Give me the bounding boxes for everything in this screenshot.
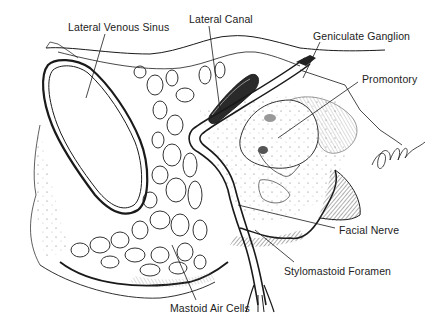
mastoid-air-cells-shape — [71, 62, 225, 276]
label-lateral-venous-sinus: Lateral Venous Sinus — [68, 21, 169, 33]
label-lateral-canal: Lateral Canal — [189, 13, 253, 25]
label-promontory: Promontory — [362, 73, 417, 85]
artist-signature — [372, 142, 425, 169]
label-geniculate-ganglion: Geniculate Ganglion — [313, 30, 410, 42]
label-stylomastoid-foramen: Stylomastoid Foramen — [284, 265, 391, 277]
anatomical-diagram: Lateral Venous Sinus Lateral Canal Genic… — [0, 0, 438, 326]
label-mastoid-air-cells: Mastoid Air Cells — [170, 302, 250, 314]
label-facial-nerve: Facial Nerve — [339, 224, 399, 236]
leader-mastoid-air-cells — [172, 245, 196, 300]
temporal-bone-illustration — [0, 0, 438, 326]
lateral-venous-sinus-shape — [43, 60, 147, 213]
